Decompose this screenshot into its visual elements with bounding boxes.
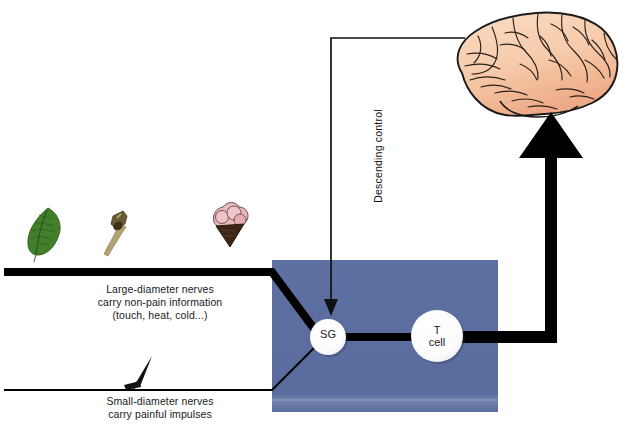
brain-illustration (458, 13, 618, 117)
small-diameter-afferent-pathway (4, 347, 315, 390)
ice-cream-icon (213, 203, 248, 248)
pin-icon (124, 356, 152, 390)
brush-icon (104, 211, 127, 256)
descending-control-label: Descending control (372, 91, 384, 221)
small-diameter-caption: Small-diameter nerves carry painful impu… (62, 395, 258, 421)
diagram-canvas (0, 0, 625, 431)
large-diameter-caption: Large-diameter nerves carry non-pain inf… (62, 283, 258, 322)
gate-control-theory-figure: Large-diameter nerves carry non-pain inf… (0, 0, 625, 431)
leaf-icon (28, 208, 60, 262)
